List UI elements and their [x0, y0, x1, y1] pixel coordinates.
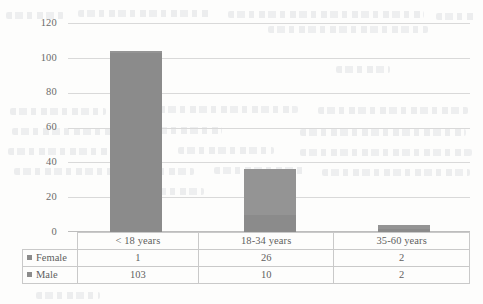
- y-tick-label: 100: [0, 52, 57, 63]
- bar-column-18-34: [244, 169, 296, 232]
- table-header-cat-0: < 18 years: [78, 233, 199, 250]
- y-tick-label: 120: [0, 17, 57, 28]
- legend-label-female: Female: [36, 252, 67, 263]
- table-cell-male-2: 2: [334, 267, 470, 284]
- bar-column-35-60: [378, 225, 430, 232]
- table-cell-male-0: 103: [78, 267, 199, 284]
- legend-swatch-male-icon: [27, 272, 32, 277]
- bar-segment-female: [244, 169, 296, 214]
- bar-segment-male: [110, 53, 162, 232]
- plot-area: [68, 23, 470, 232]
- table-header-cat-1: 18-34 years: [198, 233, 334, 250]
- table-row: Male 103 10 2: [23, 267, 470, 284]
- legend-label-male: Male: [36, 269, 58, 280]
- table-cell-female-1: 26: [198, 250, 334, 267]
- table-cell-female-0: 1: [78, 250, 199, 267]
- table-header-cat-2: 35-60 years: [334, 233, 470, 250]
- legend-swatch-female-icon: [27, 255, 32, 260]
- y-tick-label: 20: [0, 191, 57, 202]
- y-tick-label: 40: [0, 156, 57, 167]
- table-cell-female-2: 2: [334, 250, 470, 267]
- table-row: Female 1 26 2: [23, 250, 470, 267]
- y-tick-label: 60: [0, 121, 57, 132]
- gridline: [68, 23, 470, 24]
- bar-segment-male: [244, 215, 296, 232]
- table-corner-cell: [23, 233, 78, 250]
- legend-item-male: Male: [23, 267, 78, 284]
- table-cell-male-1: 10: [198, 267, 334, 284]
- table-row-categories: < 18 years 18-34 years 35-60 years: [23, 233, 470, 250]
- legend-item-female: Female: [23, 250, 78, 267]
- bar-column-under-18: [110, 51, 162, 232]
- y-tick-label: 80: [0, 86, 57, 97]
- chart-data-table: < 18 years 18-34 years 35-60 years Femal…: [22, 232, 470, 284]
